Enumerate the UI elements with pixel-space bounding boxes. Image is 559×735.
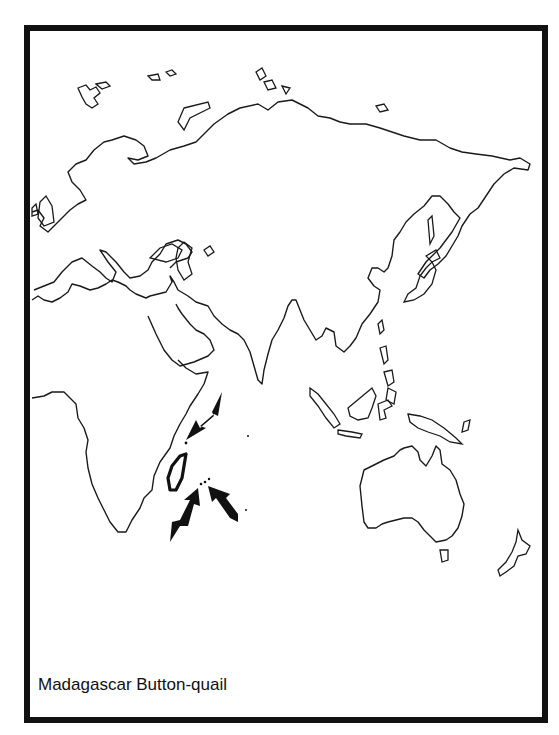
coast-africa (32, 360, 208, 532)
coast-arabia (148, 304, 214, 366)
madagascar-range (168, 454, 186, 490)
range-map (0, 0, 559, 735)
sulawesi (378, 400, 392, 420)
arrow-southwest-icon (170, 488, 200, 542)
new-guinea (408, 414, 462, 444)
map-caption: Madagascar Button-quail (38, 675, 227, 695)
tasmania (440, 550, 448, 562)
philippines (380, 346, 396, 404)
arrow-northeast-icon (186, 392, 222, 440)
arrows (170, 392, 238, 542)
british-isles (38, 196, 54, 226)
arrow-southeast-icon (208, 486, 238, 522)
new-zealand (498, 530, 530, 576)
sumatra (310, 388, 340, 428)
taiwan (378, 320, 384, 334)
java (338, 430, 362, 438)
arctic-islands (78, 68, 388, 130)
coast-eurasia (32, 100, 530, 384)
borneo (348, 388, 376, 420)
coast-australia (360, 446, 464, 542)
japan (404, 262, 436, 302)
coast-mediterranean (34, 240, 192, 290)
